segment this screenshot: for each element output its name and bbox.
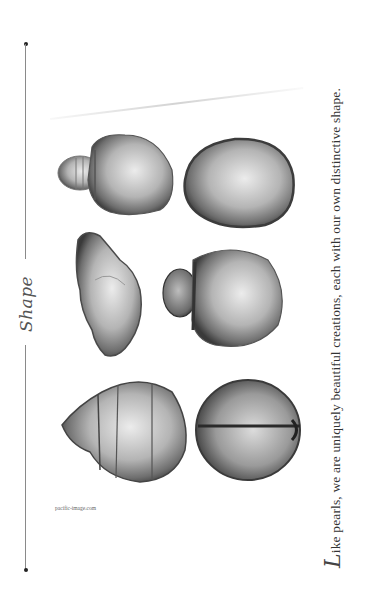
headline-drop-cap: L <box>320 553 345 568</box>
pearl-circled-round <box>196 380 300 480</box>
pearl-baroque <box>76 233 141 356</box>
pearl-illustrations <box>0 0 365 604</box>
headline: Like pearls, we are uniquely beautiful c… <box>320 88 345 568</box>
pearl-ringed-cone <box>62 382 186 482</box>
photo-credit: pacific-image.com <box>55 505 96 511</box>
headline-text: ike pearls, we are uniquely beautiful cr… <box>328 88 343 553</box>
pearl-button <box>163 250 282 346</box>
pearl-drop <box>185 139 294 227</box>
pearl-stepped-drop <box>58 135 173 215</box>
